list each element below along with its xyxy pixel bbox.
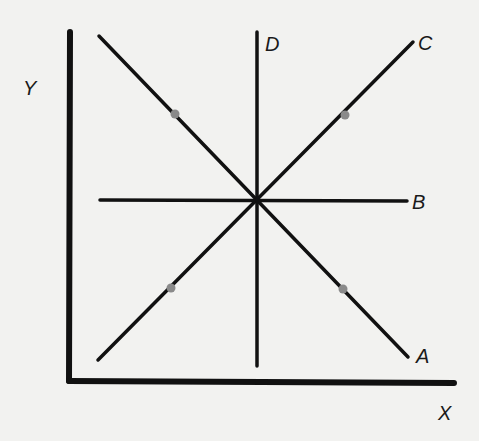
point-lower-left <box>167 284 176 293</box>
line-d-label: D <box>265 33 279 55</box>
y-axis-label: Y <box>23 77 38 99</box>
indifference-diagram: Y X A B C D <box>0 0 479 441</box>
x-axis <box>69 381 454 383</box>
x-axis-label: X <box>437 402 452 424</box>
line-a <box>99 36 408 357</box>
line-c-label: C <box>418 32 433 54</box>
point-upper-left <box>171 110 180 119</box>
y-axis <box>69 32 70 381</box>
line-b-label: B <box>412 191 425 213</box>
point-upper-right <box>341 111 350 120</box>
point-lower-right <box>339 285 348 294</box>
line-a-label: A <box>415 345 429 367</box>
